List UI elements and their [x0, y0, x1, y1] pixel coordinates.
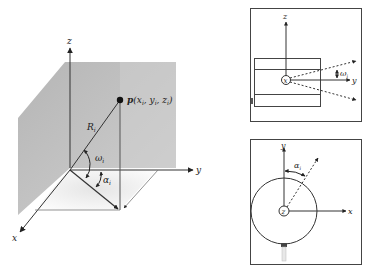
side-view-panel: z y x ωi — [251, 9, 362, 122]
z-axis-label: z — [66, 36, 72, 46]
top-center-label: z — [281, 208, 286, 216]
shaded-plane-right — [120, 62, 176, 168]
point-label: p(xi, yi, zi) — [127, 95, 173, 106]
y-axis-label: y — [195, 165, 202, 175]
point-p — [117, 97, 123, 103]
side-y-label: y — [351, 76, 357, 85]
sensor-connector — [251, 98, 253, 104]
side-center-label: x — [284, 77, 288, 85]
top-view-panel: y x z αi — [251, 140, 362, 265]
top-y-label: y — [280, 141, 286, 150]
top-cable — [282, 247, 286, 261]
top-x-label: x — [348, 207, 353, 216]
main-3d-diagram: z y x p(xi, yi, zi) Ri ωi αi — [12, 36, 202, 243]
top-connector — [281, 243, 287, 247]
side-z-label: z — [282, 12, 288, 21]
figure-canvas: z y x p(xi, yi, zi) Ri ωi αi — [0, 0, 370, 277]
x-axis-label: x — [12, 233, 17, 243]
